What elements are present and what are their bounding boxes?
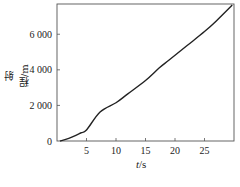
y-tick-label: 6 000 bbox=[30, 29, 53, 40]
data-series bbox=[60, 5, 232, 141]
y-tick-label: 2 000 bbox=[30, 100, 53, 111]
range-vs-time-chart: 510152025 02 0004 0006 000 bbox=[0, 0, 240, 187]
x-tick-label: 25 bbox=[200, 145, 210, 156]
x-tick-label: 15 bbox=[141, 145, 151, 156]
x-tick-label: 5 bbox=[84, 145, 89, 156]
plot-border bbox=[57, 4, 234, 141]
range-curve bbox=[60, 5, 232, 141]
x-axis-label: t/s bbox=[136, 158, 146, 170]
x-tick-label: 10 bbox=[111, 145, 121, 156]
x-tick-label: 20 bbox=[170, 145, 180, 156]
plot-frame bbox=[57, 4, 234, 141]
y-axis-ticks: 02 0004 0006 000 bbox=[30, 29, 61, 147]
x-axis-label-unit: /s bbox=[139, 158, 146, 170]
y-axis-label: 射程/m bbox=[2, 60, 18, 92]
y-tick-label: 0 bbox=[47, 136, 52, 147]
y-tick-label: 4 000 bbox=[30, 64, 53, 75]
